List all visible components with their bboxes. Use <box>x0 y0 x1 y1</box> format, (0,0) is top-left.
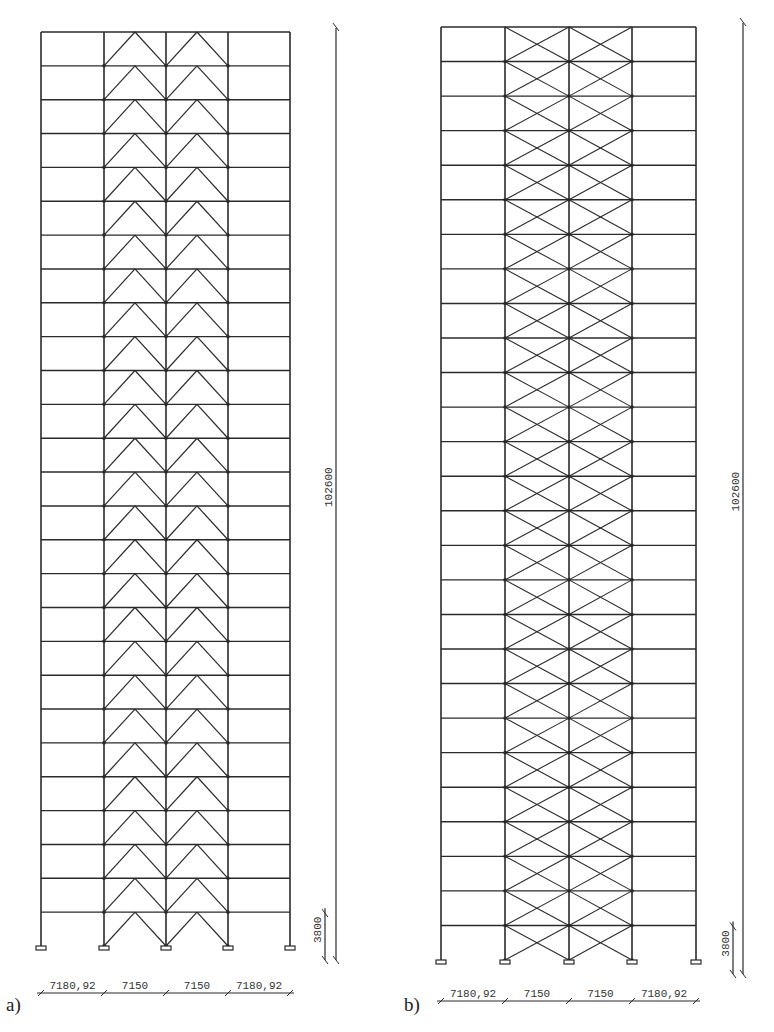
chevron-brace <box>135 100 166 134</box>
chevron-brace <box>104 675 135 709</box>
chevron-brace <box>135 743 166 777</box>
joint <box>102 775 106 779</box>
joint <box>164 335 168 339</box>
chevron-brace <box>197 303 228 337</box>
chevron-brace <box>197 743 228 777</box>
joint <box>102 640 106 644</box>
support-icon <box>99 946 109 950</box>
frame-a-chevron-braced: 10260038007180,92715071507180,92 <box>36 23 339 996</box>
joint <box>164 673 168 677</box>
joint <box>164 843 168 847</box>
chevron-brace <box>197 607 228 641</box>
chevron-brace <box>197 472 228 506</box>
chevron-brace <box>104 269 135 303</box>
chevron-brace <box>104 607 135 641</box>
joint <box>226 809 230 813</box>
chevron-brace <box>197 269 228 303</box>
chevron-brace <box>104 100 135 134</box>
caption-a: a) <box>6 994 21 1016</box>
chevron-brace <box>135 66 166 100</box>
chevron-brace <box>197 777 228 811</box>
chevron-brace <box>104 167 135 201</box>
joint <box>226 572 230 576</box>
chevron-brace <box>135 844 166 878</box>
chevron-brace <box>166 235 197 269</box>
joint <box>164 166 168 170</box>
chevron-brace <box>197 912 228 946</box>
joint <box>164 640 168 644</box>
chevron-brace <box>166 438 197 472</box>
chevron-brace <box>166 641 197 675</box>
chevron-brace <box>104 844 135 878</box>
chevron-brace <box>166 371 197 405</box>
chevron-brace <box>135 134 166 168</box>
joint <box>102 843 106 847</box>
joint <box>102 335 106 339</box>
chevron-brace <box>104 472 135 506</box>
joint <box>164 436 168 440</box>
support-icon <box>627 960 637 964</box>
bay-width-label: 7180,92 <box>49 980 95 992</box>
caption-b: b) <box>404 994 420 1016</box>
chevron-brace <box>197 878 228 912</box>
chevron-brace <box>166 844 197 878</box>
chevron-brace <box>197 506 228 540</box>
joint <box>102 876 106 880</box>
chevron-brace <box>135 472 166 506</box>
chevron-brace <box>166 811 197 845</box>
joint <box>102 233 106 237</box>
chevron-brace <box>166 540 197 574</box>
chevron-brace <box>166 303 197 337</box>
chevron-brace <box>197 134 228 168</box>
chevron-brace <box>104 371 135 405</box>
joint <box>102 132 106 136</box>
joint <box>164 470 168 474</box>
joint <box>226 606 230 610</box>
chevron-brace <box>135 675 166 709</box>
chevron-brace <box>166 777 197 811</box>
chevron-brace <box>135 878 166 912</box>
chevron-brace <box>135 574 166 608</box>
joint <box>164 775 168 779</box>
chevron-brace <box>166 100 197 134</box>
support-icon <box>436 960 446 964</box>
joint <box>102 64 106 68</box>
chevron-brace <box>166 32 197 66</box>
chevron-brace <box>197 167 228 201</box>
bay-width-label: 7150 <box>587 988 613 1000</box>
joint <box>164 403 168 407</box>
chevron-brace <box>104 66 135 100</box>
joint <box>226 673 230 677</box>
joint <box>102 504 106 508</box>
chevron-brace <box>197 66 228 100</box>
joint <box>164 910 168 914</box>
chevron-brace <box>135 337 166 371</box>
chevron-brace <box>166 912 197 946</box>
support-icon <box>285 946 295 950</box>
joint <box>102 403 106 407</box>
chevron-brace <box>135 235 166 269</box>
chevron-brace <box>104 574 135 608</box>
chevron-brace <box>135 777 166 811</box>
chevron-brace <box>166 607 197 641</box>
joint <box>164 132 168 136</box>
chevron-brace <box>104 743 135 777</box>
chevron-brace <box>166 269 197 303</box>
joint <box>164 741 168 745</box>
joint <box>226 267 230 271</box>
bay-width-label: 7180,92 <box>450 988 496 1000</box>
story-height-label: 3800 <box>312 917 324 943</box>
joint <box>102 741 106 745</box>
chevron-brace <box>135 641 166 675</box>
joint <box>164 369 168 373</box>
bay-width-label: 7150 <box>184 980 210 992</box>
chevron-brace <box>135 303 166 337</box>
chevron-brace <box>166 134 197 168</box>
joint <box>164 98 168 102</box>
joint <box>164 267 168 271</box>
joint <box>226 369 230 373</box>
bay-width-label: 7150 <box>122 980 148 992</box>
chevron-brace <box>166 506 197 540</box>
joint <box>226 843 230 847</box>
chevron-brace <box>135 167 166 201</box>
